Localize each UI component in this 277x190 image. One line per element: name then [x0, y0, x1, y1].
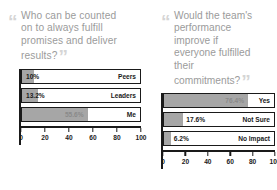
axis-tick-label: 100: [269, 158, 277, 165]
x-axis-tick-labels-right: 0 20 40 60 80 100: [163, 158, 275, 169]
table-row: 10% Peers: [21, 69, 141, 84]
bar-category-leaders: Leaders: [111, 92, 136, 99]
axis-tick: [68, 128, 69, 132]
axis-tick: [274, 152, 275, 156]
bar-category-yes: Yes: [259, 97, 270, 104]
bar-category-not-sure: Not Sure: [243, 116, 270, 123]
bar-category-peers: Peers: [118, 73, 136, 80]
panel-right: “ Would the team's performance improve i…: [139, 0, 277, 190]
axis-tick: [162, 152, 163, 156]
axis-tick-label: 0: [19, 134, 23, 141]
quote-block-right: “ Would the team's performance improve i…: [161, 10, 273, 87]
quote-close-icon: ”: [241, 76, 250, 88]
bar-category-me: Me: [127, 111, 136, 118]
table-row: 17.6% Not Sure: [163, 112, 275, 127]
bar-value-yes: 76.4%: [164, 97, 248, 104]
axis-tick: [20, 128, 21, 132]
axis-tick-label: 60: [89, 134, 96, 141]
plot-area-left: 10% Peers 13.2% Leaders 55.6% Me: [19, 69, 141, 145]
panel-left: “ Who can be counted on to always fulfil…: [0, 0, 139, 190]
panel-left-heading-text: Who can be counted on to always fulfill …: [21, 10, 117, 61]
axis-tick: [207, 152, 208, 156]
axis-tick: [229, 152, 230, 156]
axis-tick: [185, 152, 186, 156]
axis-tick-label: 80: [113, 134, 120, 141]
figure-root: “ Who can be counted on to always fulfil…: [0, 0, 277, 190]
x-axis-right: [163, 150, 275, 157]
axis-tick-label: 0: [161, 158, 165, 165]
axis-tick-label: 20: [182, 158, 189, 165]
panel-right-heading: Would the team's performance improve if …: [174, 10, 259, 87]
bar-fill-not-sure: [164, 113, 183, 126]
table-row: 6.2% No Impact: [163, 131, 275, 146]
axis-tick: [252, 152, 253, 156]
axis-tick-label: 80: [249, 158, 256, 165]
chart-left: 10% Peers 13.2% Leaders 55.6% Me: [19, 69, 141, 145]
quote-close-icon: ”: [58, 51, 67, 63]
bar-value-no-impact: 6.2%: [171, 135, 189, 142]
bar-value-not-sure: 17.6%: [183, 116, 205, 123]
bar-value-leaders: 13.2%: [26, 92, 45, 99]
table-row: 55.6% Me: [21, 107, 141, 122]
axis-tick-label: 40: [204, 158, 211, 165]
bar-fill-no-impact: [164, 132, 171, 145]
axis-tick-label: 20: [41, 134, 48, 141]
axis-tick: [44, 128, 45, 132]
panel-left-heading: Who can be counted on to always fulfill …: [21, 10, 119, 63]
quote-block-left: “ Who can be counted on to always fulfil…: [8, 10, 133, 63]
table-row: 76.4% Yes: [163, 93, 275, 108]
axis-tick: [92, 128, 93, 132]
axis-tick-label: 40: [65, 134, 72, 141]
bar-value-peers: 10%: [26, 73, 39, 80]
plot-area-right: 76.4% Yes 17.6% Not Sure 6.2% No Impact: [161, 93, 275, 169]
bar-value-me: 55.6%: [22, 111, 88, 118]
quote-open-icon: “: [161, 12, 170, 31]
x-axis-left: [21, 126, 141, 133]
table-row: 13.2% Leaders: [21, 88, 141, 103]
axis-tick-label: 60: [227, 158, 234, 165]
chart-right: 76.4% Yes 17.6% Not Sure 6.2% No Impact: [161, 93, 275, 169]
bar-category-no-impact: No Impact: [238, 135, 270, 142]
quote-open-icon: “: [8, 12, 17, 31]
x-axis-tick-labels-left: 0 20 40 60 80 100: [21, 134, 141, 145]
axis-tick: [116, 128, 117, 132]
